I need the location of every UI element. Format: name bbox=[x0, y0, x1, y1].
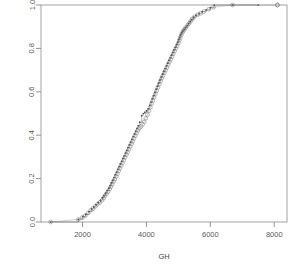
data-point bbox=[127, 147, 129, 149]
data-point bbox=[149, 104, 151, 106]
data-point bbox=[159, 79, 161, 81]
data-point bbox=[201, 11, 203, 13]
y-axis-tick-label: 0.6 bbox=[28, 87, 37, 97]
data-point bbox=[88, 211, 90, 213]
data-point bbox=[93, 206, 95, 208]
data-point bbox=[85, 214, 87, 216]
data-point bbox=[257, 4, 259, 6]
data-point bbox=[198, 12, 200, 14]
data-point bbox=[169, 57, 171, 59]
data-point bbox=[180, 34, 182, 36]
y-axis-tick-label: 0.8 bbox=[28, 43, 37, 53]
data-point bbox=[179, 36, 181, 38]
data-point bbox=[170, 54, 172, 56]
data-point bbox=[174, 46, 176, 48]
data-point bbox=[156, 85, 158, 87]
series-line bbox=[51, 5, 278, 222]
data-point bbox=[103, 195, 105, 197]
data-point bbox=[154, 92, 156, 94]
data-point bbox=[182, 30, 184, 32]
data-point bbox=[195, 14, 197, 16]
data-point bbox=[130, 141, 132, 143]
ecdf-plot-figure: 20004000600080000.00.20.40.60.81.0GH bbox=[0, 0, 297, 268]
data-point bbox=[150, 101, 152, 103]
series-ecdf-step-dots bbox=[50, 4, 259, 223]
data-point bbox=[101, 197, 103, 199]
data-point bbox=[116, 171, 118, 173]
data-point bbox=[114, 174, 116, 176]
data-point bbox=[133, 133, 135, 135]
data-point bbox=[50, 221, 52, 223]
data-point bbox=[122, 158, 124, 160]
data-point bbox=[91, 208, 93, 210]
data-point bbox=[176, 44, 178, 46]
data-point bbox=[124, 152, 126, 154]
data-point bbox=[158, 82, 160, 84]
data-point bbox=[168, 59, 170, 61]
data-point bbox=[142, 113, 144, 115]
data-point bbox=[117, 168, 119, 170]
x-axis-title: GH bbox=[158, 252, 169, 261]
data-point bbox=[141, 115, 143, 117]
data-point bbox=[209, 7, 211, 9]
data-point bbox=[95, 204, 97, 206]
data-point bbox=[164, 68, 166, 70]
y-axis-tick-label: 0.0 bbox=[28, 217, 37, 227]
data-point bbox=[185, 27, 187, 29]
data-point bbox=[193, 16, 195, 18]
data-point bbox=[121, 160, 123, 162]
data-point bbox=[173, 49, 175, 51]
data-point bbox=[162, 73, 164, 75]
series-line bbox=[51, 5, 259, 222]
data-point bbox=[82, 216, 84, 218]
plot-canvas: 20004000600080000.00.20.40.60.81.0GH bbox=[0, 0, 297, 268]
data-point bbox=[100, 199, 102, 201]
data-point bbox=[165, 65, 167, 67]
x-axis-tick-label: 2000 bbox=[74, 230, 91, 239]
data-point bbox=[160, 76, 162, 78]
data-point bbox=[232, 4, 234, 6]
data-point bbox=[108, 187, 110, 189]
data-point bbox=[191, 18, 193, 20]
data-point bbox=[97, 202, 99, 204]
data-point bbox=[163, 71, 165, 73]
x-axis-tick-label: 6000 bbox=[202, 230, 219, 239]
data-point bbox=[132, 136, 134, 138]
x-axis-tick-label: 4000 bbox=[138, 230, 155, 239]
y-axis-tick-label: 1.0 bbox=[28, 0, 37, 10]
y-axis-tick-label: 0.2 bbox=[28, 173, 37, 183]
data-point bbox=[105, 192, 107, 194]
data-point bbox=[205, 9, 207, 11]
x-axis-tick-label: 8000 bbox=[266, 230, 283, 239]
data-point bbox=[167, 62, 169, 64]
data-point bbox=[78, 219, 80, 221]
y-axis-tick-label: 0.4 bbox=[28, 130, 37, 140]
data-point bbox=[151, 98, 153, 100]
data-point bbox=[155, 88, 157, 90]
data-point bbox=[135, 130, 137, 132]
data-point bbox=[126, 150, 128, 152]
data-point bbox=[139, 121, 141, 123]
data-point bbox=[109, 185, 111, 187]
data-point bbox=[119, 163, 121, 165]
data-point bbox=[213, 4, 215, 6]
data-point bbox=[181, 32, 183, 34]
data-point bbox=[131, 138, 133, 140]
data-point bbox=[188, 23, 190, 25]
data-point bbox=[153, 95, 155, 97]
data-point bbox=[136, 127, 138, 129]
data-point bbox=[186, 25, 188, 27]
data-point bbox=[118, 166, 120, 168]
data-point bbox=[137, 125, 139, 127]
data-point bbox=[189, 20, 191, 22]
data-point bbox=[110, 182, 112, 184]
series-ecdf-open-circles bbox=[49, 3, 280, 224]
data-point bbox=[128, 144, 130, 146]
data-point bbox=[183, 28, 185, 30]
plot-frame bbox=[41, 5, 287, 222]
data-point bbox=[123, 155, 125, 157]
data-point bbox=[172, 52, 174, 54]
data-point bbox=[113, 177, 115, 179]
data-point bbox=[112, 179, 114, 181]
data-point bbox=[146, 110, 148, 112]
